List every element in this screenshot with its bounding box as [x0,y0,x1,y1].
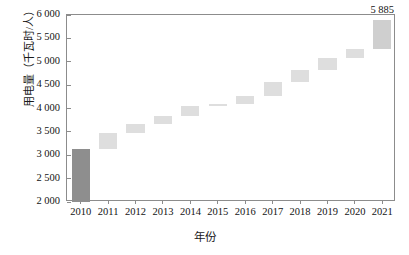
x-tick-label: 2021 [372,206,393,217]
x-tick-label: 2010 [70,206,91,217]
y-tick-mark [67,15,71,16]
y-tick-label: 5 500 [36,31,60,42]
bar-2019 [318,58,336,70]
y-tick-mark [67,38,71,39]
y-tick-mark [67,61,71,62]
x-tick-label: 2015 [207,206,228,217]
bar-2015 [209,104,227,106]
x-tick-mark [272,200,273,204]
x-tick-label: 2018 [290,206,311,217]
y-tick-label: 2 500 [36,172,60,183]
y-tick-label: 3 500 [36,125,60,136]
x-axis-title: 年份 [0,228,409,244]
x-tick-label: 2019 [317,206,338,217]
y-tick-mark [67,178,71,179]
y-axis-title: 用电量（千瓦时/人） [20,0,36,136]
x-tick-label: 2014 [180,206,201,217]
plot-area: 2 0002 5003 0003 5004 0004 5005 0005 500… [66,14,395,201]
x-tick-mark [135,200,136,204]
y-tick-label: 2 000 [36,195,60,206]
x-tick-label: 2016 [235,206,256,217]
x-tick-label: 2012 [125,206,146,217]
bar-2017 [264,82,282,96]
bar-2010 [72,149,90,202]
y-tick-label: 6 000 [36,8,60,19]
value-label-2021: 5 885 [370,4,394,15]
bar-2012 [126,124,144,133]
bar-2016 [236,96,254,104]
x-tick-mark [327,200,328,204]
y-tick-mark [67,202,71,203]
y-tick-mark [67,85,71,86]
bar-2021 [373,20,391,48]
x-tick-mark [300,200,301,204]
y-tick-label: 4 500 [36,78,60,89]
bar-2011 [99,133,117,149]
bar-2018 [291,70,309,83]
y-tick-label: 4 000 [36,102,60,113]
x-tick-mark [217,200,218,204]
y-tick-mark [67,108,71,109]
chart-root: 用电量（千瓦时/人） 2 0002 5003 0003 5004 0004 50… [0,0,409,255]
x-tick-mark [245,200,246,204]
bar-2014 [181,106,199,116]
x-tick-mark [354,200,355,204]
bar-2020 [346,49,364,58]
y-tick-label: 3 000 [36,148,60,159]
bar-2013 [154,116,172,124]
x-tick-label: 2017 [262,206,283,217]
y-tick-mark [67,131,71,132]
y-tick-label: 5 000 [36,55,60,66]
y-tick-mark [67,155,71,156]
x-tick-label: 2011 [98,206,119,217]
x-tick-mark [382,200,383,204]
x-tick-label: 2013 [152,206,173,217]
x-tick-mark [108,200,109,204]
x-tick-label: 2020 [344,206,365,217]
x-tick-mark [162,200,163,204]
x-tick-mark [190,200,191,204]
